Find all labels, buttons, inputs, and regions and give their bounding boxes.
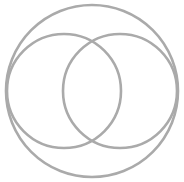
outer-circle — [6, 5, 178, 177]
venn-diagram — [0, 0, 184, 182]
